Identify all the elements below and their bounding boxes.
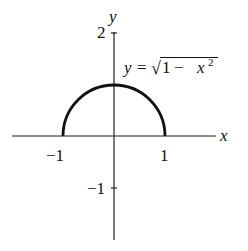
eq-minus: − [174,58,184,77]
y-tick-label-2: 2 [97,23,106,42]
eq-x: x [196,58,205,77]
x-tick-label-1: 1 [160,146,169,165]
x-tick-label-neg1: −1 [46,146,64,165]
y-tick-label-neg1: −1 [87,179,105,198]
eq-equals: = [137,58,147,77]
semicircle-plot: 2 −1 −1 1 y x y = √ 1 − x 2 [0,0,248,251]
equation-annotation: y = √ 1 − x 2 [122,56,218,78]
eq-lhs: y [122,58,132,77]
x-axis-label: x [219,126,228,145]
eq-exponent: 2 [208,56,214,68]
eq-one: 1 [162,58,171,77]
y-axis-label: y [107,7,117,26]
eq-radical: √ [151,58,161,78]
